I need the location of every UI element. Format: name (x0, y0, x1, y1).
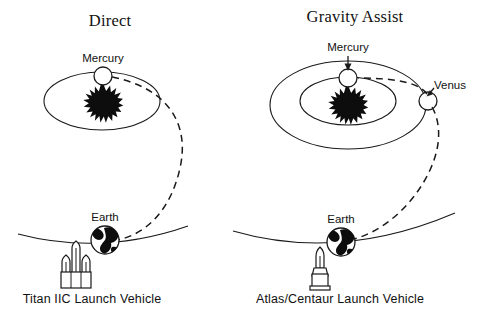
mercury-label-ga: Mercury (327, 41, 369, 53)
atlas-centaur-rocket-icon (310, 247, 330, 290)
venus-label: Venus (434, 79, 466, 91)
panel-title-direct: Direct (89, 11, 132, 30)
earth-icon-gravity-assist (327, 228, 355, 256)
sun-icon-gravity-assist (328, 85, 368, 125)
gravity-assist-trajectory-leg1 (350, 104, 439, 240)
earth-label-direct: Earth (91, 211, 119, 223)
mercury-label-direct: Mercury (82, 52, 124, 64)
panel-direct: Direct Mercury (18, 11, 188, 306)
sun-icon-direct (83, 83, 123, 123)
caption-atlas-centaur: Atlas/Centaur Launch Vehicle (256, 292, 424, 306)
panel-gravity-assist: Gravity Assist Mercury (233, 7, 466, 306)
earth-icon-direct (91, 226, 119, 254)
mercury-body-ga (339, 69, 357, 87)
figure-canvas: Direct Mercury (0, 0, 485, 317)
panel-title-gravity-assist: Gravity Assist (307, 7, 404, 26)
caption-titan-iic: Titan IIC Launch Vehicle (23, 292, 162, 306)
mercury-body-direct (94, 67, 112, 85)
direct-transfer-trajectory (112, 77, 182, 241)
titan-iic-rocket-icon (61, 241, 91, 288)
earth-label-ga: Earth (327, 213, 355, 225)
orbital-trajectory-figure: Direct Mercury (0, 0, 485, 317)
